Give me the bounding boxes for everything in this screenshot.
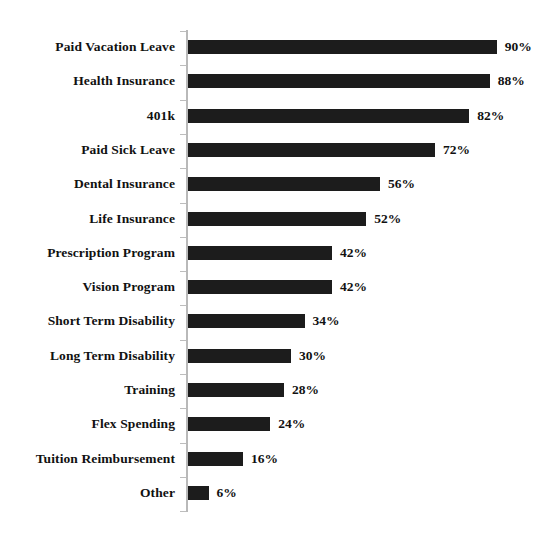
bar-value-label: 52%: [374, 212, 401, 226]
bar: [188, 486, 209, 500]
bar-value-label: 42%: [340, 246, 367, 260]
bar-row: Short Term Disability34%: [0, 304, 560, 338]
category-label: Life Insurance: [0, 202, 175, 236]
bar: [188, 212, 366, 226]
axis-tick: [180, 511, 186, 512]
bar: [188, 280, 332, 294]
bar: [188, 349, 291, 363]
category-label: Flex Spending: [0, 407, 175, 441]
bar: [188, 417, 270, 431]
bar-row: Dental Insurance56%: [0, 167, 560, 201]
category-label: Tuition Reimbursement: [0, 442, 175, 476]
bar-row: 401k82%: [0, 99, 560, 133]
horizontal-bar-chart: Paid Vacation Leave90%Health Insurance88…: [0, 0, 560, 547]
bar-row: Paid Sick Leave72%: [0, 133, 560, 167]
bar-value-label: 72%: [443, 143, 470, 157]
bar-row: Tuition Reimbursement16%: [0, 442, 560, 476]
bar: [188, 452, 243, 466]
bar-row: Life Insurance52%: [0, 202, 560, 236]
bar-row: Health Insurance88%: [0, 64, 560, 98]
category-label: Paid Vacation Leave: [0, 30, 175, 64]
bar: [188, 40, 497, 54]
category-label: Training: [0, 373, 175, 407]
bar-value-label: 88%: [498, 74, 525, 88]
category-label: Dental Insurance: [0, 167, 175, 201]
bar-value-label: 16%: [251, 452, 278, 466]
bar-value-label: 34%: [313, 314, 340, 328]
category-label: 401k: [0, 99, 175, 133]
bar: [188, 109, 469, 123]
category-label: Health Insurance: [0, 64, 175, 98]
bar-value-label: 56%: [388, 177, 415, 191]
bar-row: Prescription Program42%: [0, 236, 560, 270]
bar-row: Flex Spending24%: [0, 407, 560, 441]
bar-value-label: 24%: [278, 417, 305, 431]
bar-value-label: 42%: [340, 280, 367, 294]
bar-value-label: 82%: [477, 109, 504, 123]
clipped-title-remnant: [0, 0, 560, 14]
bar: [188, 177, 380, 191]
bar-row: Vision Program42%: [0, 270, 560, 304]
bar: [188, 143, 435, 157]
bar: [188, 74, 490, 88]
bar-value-label: 6%: [217, 486, 237, 500]
category-label: Vision Program: [0, 270, 175, 304]
bar-row: Paid Vacation Leave90%: [0, 30, 560, 64]
bar-value-label: 30%: [299, 349, 326, 363]
bar-row: Training28%: [0, 373, 560, 407]
bar: [188, 246, 332, 260]
category-label: Prescription Program: [0, 236, 175, 270]
category-label: Other: [0, 476, 175, 510]
bar-row: Long Term Disability30%: [0, 339, 560, 373]
bar-value-label: 90%: [505, 40, 532, 54]
plot-area: Paid Vacation Leave90%Health Insurance88…: [0, 26, 560, 526]
category-label: Short Term Disability: [0, 304, 175, 338]
bar: [188, 314, 305, 328]
bar-value-label: 28%: [292, 383, 319, 397]
bar: [188, 383, 284, 397]
bar-row: Other6%: [0, 476, 560, 510]
category-label: Long Term Disability: [0, 339, 175, 373]
category-label: Paid Sick Leave: [0, 133, 175, 167]
